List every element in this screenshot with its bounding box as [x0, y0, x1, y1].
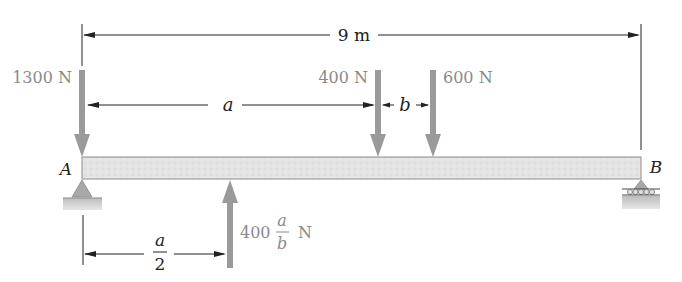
load-400n: 400 N: [318, 68, 386, 157]
beam: [82, 157, 641, 179]
roller-support-icon: [634, 180, 648, 189]
load-400-a-over-b: 400 a b N: [222, 180, 312, 268]
load-600n: 600 N: [425, 68, 493, 157]
arrowhead-right-icon: [363, 102, 375, 108]
beam-diagram: 9 m 1300 N a 400 N b 600 N: [0, 0, 682, 282]
arrow-down-icon: [74, 134, 90, 157]
half-a-frac-num: a: [155, 230, 165, 250]
ground-icon: [622, 196, 660, 209]
load-label-600: 600 N: [443, 68, 493, 87]
dimension-a: a: [87, 94, 375, 115]
dimension-b: b: [382, 94, 429, 115]
arrowhead-left-icon: [87, 102, 99, 108]
pin-support-icon: [72, 180, 92, 197]
arrow-down-icon: [425, 134, 441, 157]
ground-icon: [63, 198, 102, 210]
reaction-frac-den: b: [277, 234, 287, 253]
span-dimension: 9 m: [82, 24, 641, 150]
load-1300n: 1300 N: [12, 68, 90, 157]
support-label-a: A: [58, 159, 72, 179]
arrowhead-left-icon: [84, 251, 96, 257]
arrow-up-icon: [222, 180, 238, 203]
arrowhead-right-icon: [628, 32, 640, 38]
arrowhead-right-icon: [421, 103, 429, 108]
dim-a-label: a: [223, 94, 234, 115]
arrow-shaft: [227, 201, 233, 268]
arrow-shaft: [375, 70, 381, 136]
arrow-down-icon: [370, 134, 386, 157]
span-label: 9 m: [338, 25, 370, 45]
arrow-shaft: [79, 70, 85, 136]
arrowhead-left-icon: [83, 32, 95, 38]
reaction-label-prefix: 400: [240, 223, 271, 242]
dim-b-label: b: [399, 94, 411, 115]
load-label-1300: 1300 N: [12, 68, 72, 87]
arrowhead-right-icon: [214, 251, 226, 257]
arrowhead-left-icon: [382, 103, 390, 108]
load-label-400: 400 N: [318, 68, 368, 87]
dimension-half-a: a 2: [83, 215, 226, 274]
half-a-frac-den: 2: [155, 254, 166, 274]
support-label-b: B: [649, 157, 663, 177]
reaction-frac-num: a: [277, 211, 287, 230]
reaction-label-suffix: N: [298, 223, 312, 242]
roller-wheels-icon: [627, 189, 654, 194]
arrow-shaft: [430, 70, 436, 136]
